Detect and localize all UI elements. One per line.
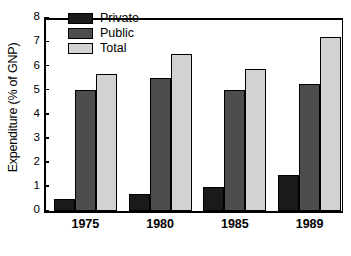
legend-label-total: Total (100, 42, 126, 55)
y-tick-label: 7 (34, 36, 40, 48)
y-tick-label: 1 (34, 180, 40, 192)
legend-swatch-total (68, 43, 93, 54)
bar-public-1989 (299, 84, 320, 211)
legend-label-private: Private (100, 12, 139, 25)
bar-total-1975 (96, 74, 117, 212)
bar-private-1985 (203, 187, 224, 211)
y-tick-label: 4 (34, 108, 40, 120)
x-axis-line (44, 211, 343, 213)
y-tick-label: 8 (34, 12, 40, 24)
bar-public-1975 (75, 90, 96, 211)
bar-private-1980 (129, 194, 150, 211)
bar-total-1985 (245, 69, 266, 211)
y-tick-label: 0 (34, 205, 40, 217)
bar-chart-figure: Expenditure (% of GNP) 012345678 1975198… (0, 0, 351, 256)
bar-public-1980 (150, 78, 171, 211)
chart-legend: PrivatePublicTotal (68, 12, 139, 55)
x-tick-label-1989: 1989 (266, 217, 351, 231)
bar-total-1989 (320, 37, 341, 211)
y-tick-label: 3 (34, 132, 40, 144)
bar-public-1985 (224, 90, 245, 211)
legend-item-total: Total (68, 42, 139, 55)
legend-swatch-public (68, 28, 93, 39)
bar-total-1980 (171, 54, 192, 211)
legend-label-public: Public (100, 27, 134, 40)
bar-group (203, 18, 266, 211)
y-tick-label: 6 (34, 60, 40, 72)
y-tick-label: 2 (34, 156, 40, 168)
bar-private-1975 (54, 199, 75, 211)
bar-private-1989 (278, 175, 299, 211)
legend-swatch-private (68, 13, 93, 24)
y-tick-label: 5 (34, 84, 40, 96)
legend-item-private: Private (68, 12, 139, 25)
y-axis-title: Expenditure (% of GNP) (2, 2, 24, 213)
legend-item-public: Public (68, 27, 139, 40)
bar-group (278, 18, 341, 211)
